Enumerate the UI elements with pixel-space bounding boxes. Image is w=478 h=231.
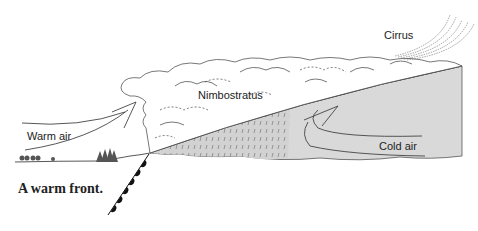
cold-air-label: Cold air — [379, 140, 417, 152]
warm-front-symbol — [108, 154, 149, 215]
trees-icon — [20, 148, 119, 162]
cirrus-label: Cirrus — [384, 29, 413, 41]
warm-front-diagram: Cirrus Nimbostratus Warm air Cold air A … — [0, 0, 478, 231]
warm-air-label: Warm air — [27, 130, 71, 142]
figure-caption: A warm front. — [18, 181, 103, 197]
warm-air-arrow — [22, 102, 136, 150]
nimbostratus-label: Nimbostratus — [198, 89, 263, 101]
